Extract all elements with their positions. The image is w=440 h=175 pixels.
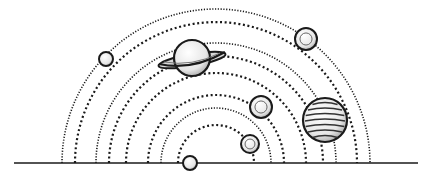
bottom-planet-icon — [183, 156, 197, 170]
orbit-5 — [126, 73, 306, 163]
solar-system-illustration — [0, 0, 440, 175]
orbit-4 — [109, 56, 323, 163]
top-right-planet-icon — [295, 28, 317, 50]
solar-system-canvas — [0, 0, 440, 175]
planets — [99, 28, 347, 170]
middle-planet-icon — [250, 96, 272, 118]
lower-planet-icon — [241, 135, 259, 153]
banded-planet-icon — [303, 98, 347, 142]
small-left-planet-icon — [99, 52, 113, 66]
ringed-planet-icon — [157, 40, 226, 76]
